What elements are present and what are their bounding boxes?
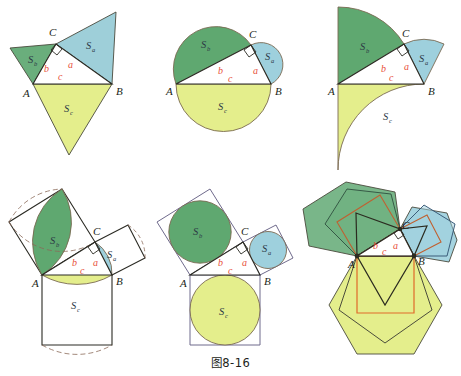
svg-text:c: c: [389, 117, 392, 124]
vertex-label-b: B: [116, 275, 123, 287]
vertex-label-b: B: [418, 255, 425, 267]
svg-text:c: c: [70, 109, 73, 116]
vertex-label-a: A: [347, 258, 355, 270]
svg-text:a: a: [268, 249, 271, 256]
svg-text:a: a: [113, 255, 116, 262]
side-label-c: c: [80, 265, 85, 276]
vertex-label-a: A: [179, 277, 187, 289]
side-label-c: c: [382, 246, 387, 257]
side-label-b: b: [72, 257, 77, 268]
svg-text:c: c: [224, 107, 227, 114]
side-label-a: a: [393, 240, 398, 251]
vertex-label-a: A: [327, 85, 335, 97]
svg-text:c: c: [225, 312, 228, 319]
side-label-c: c: [58, 71, 63, 82]
vertex-label-b: B: [264, 275, 271, 287]
vertex-label-a: A: [31, 277, 39, 289]
side-label-a: a: [242, 257, 247, 268]
figure-caption: 图8-16: [0, 354, 461, 370]
vertex-label-c: C: [402, 27, 410, 39]
vertex-label-b: B: [116, 85, 123, 97]
vertex-label-b: B: [428, 85, 435, 97]
svg-text:a: a: [425, 59, 428, 66]
vertex-label-c: C: [249, 28, 257, 40]
vertex-label-b: B: [275, 85, 282, 97]
circle-sc: [190, 275, 260, 345]
side-label-b: b: [44, 63, 49, 74]
svg-text:a: a: [92, 46, 95, 53]
vertex-dot-b: [412, 254, 417, 259]
side-label-b: b: [218, 65, 223, 76]
pythagorean-similar-figures-diagram: A B C b a c S b S a S c A B C b: [0, 0, 461, 376]
vertex-label-c: C: [402, 219, 410, 231]
side-label-a: a: [404, 61, 409, 72]
side-label-a: a: [253, 65, 258, 76]
side-label-b: b: [373, 240, 378, 251]
side-label-c: c: [228, 73, 233, 84]
svg-text:c: c: [77, 306, 80, 313]
vertex-label-c: C: [49, 26, 57, 38]
vertex-label-a: A: [22, 87, 30, 99]
side-label-b: b: [381, 63, 386, 74]
side-label-c: c: [389, 72, 394, 83]
vertex-label-c: C: [241, 225, 249, 237]
side-label-a: a: [68, 59, 73, 70]
vertex-dot-a: [355, 254, 360, 259]
figure-sheet: A B C b a c S b S a S c A B C b: [0, 0, 461, 376]
vertex-label-a: A: [165, 85, 173, 97]
svg-text:a: a: [271, 57, 274, 64]
side-label-c: c: [228, 265, 233, 276]
vertex-label-c: C: [93, 225, 101, 237]
side-label-a: a: [93, 257, 98, 268]
side-label-b: b: [218, 257, 223, 268]
